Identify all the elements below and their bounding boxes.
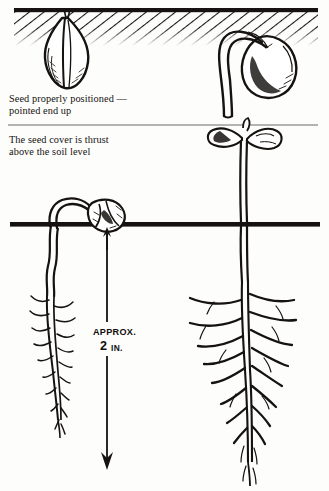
measurement-unit: IN.: [111, 343, 123, 353]
caption-seed-cover: The seed cover is thrust above the soil …: [9, 134, 109, 157]
caption-seed-position: Seed properly positioned — pointed end u…: [9, 93, 127, 116]
measurement-value: 2: [100, 339, 107, 353]
germination-diagram: [0, 0, 329, 491]
measurement-approx-label: APPROX.: [93, 327, 136, 337]
